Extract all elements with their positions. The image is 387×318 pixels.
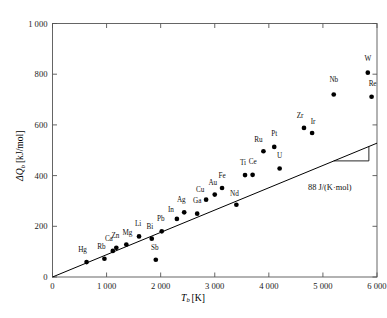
data-point	[365, 70, 370, 75]
data-point-label: Au	[208, 179, 217, 187]
data-point	[159, 229, 164, 234]
data-point-label: Ga	[193, 197, 201, 205]
data-point-label: Ag	[177, 196, 186, 204]
data-point	[331, 92, 336, 97]
data-point	[250, 172, 255, 177]
data-point	[124, 242, 129, 247]
data-point	[137, 234, 142, 239]
data-point	[310, 131, 315, 136]
data-point	[261, 149, 266, 154]
plot-frame	[53, 24, 378, 278]
x-tick-label: 4 000	[259, 281, 278, 291]
chart-figure: ΔQb [kJ/mol] Tb [K] 88 J/(K·mol) 01 0002…	[0, 0, 387, 318]
data-point-label: Re	[369, 80, 377, 88]
x-tick-label: 6 000	[367, 281, 386, 291]
data-point-label: Hg	[78, 246, 87, 254]
y-tick-label: 600	[0, 120, 48, 130]
data-point-label: Ce	[249, 158, 257, 166]
data-point-label: Ru	[254, 136, 262, 144]
data-point-label: Bi	[146, 223, 153, 231]
x-tick-label: 2 000	[151, 281, 170, 291]
x-tick-label: 1 000	[97, 281, 116, 291]
data-point	[243, 173, 248, 178]
data-point	[114, 245, 119, 250]
data-point-label: Ir	[311, 118, 316, 126]
x-tick-label: 0	[50, 281, 54, 291]
data-point-label: W	[364, 55, 371, 63]
scatter-plot-canvas	[0, 0, 387, 318]
data-point-label: Zn	[111, 232, 119, 240]
y-tick-label: 200	[0, 221, 48, 231]
data-point-label: Nd	[230, 190, 239, 198]
data-point	[369, 94, 374, 99]
data-point-label: Rb	[97, 243, 105, 251]
data-point	[234, 202, 239, 207]
fit-line	[53, 143, 378, 277]
data-point	[277, 166, 282, 171]
data-point	[220, 186, 225, 191]
y-tick-label: 1 000	[0, 19, 48, 29]
data-point-label: Sb	[151, 244, 158, 252]
data-point-label: Cu	[196, 186, 204, 194]
data-point	[182, 210, 187, 215]
data-point-label: Ti	[240, 159, 246, 167]
data-point	[272, 145, 277, 150]
data-point	[149, 236, 154, 241]
data-point	[204, 197, 209, 202]
y-tick-label: 800	[0, 69, 48, 79]
data-point-label: Zr	[297, 112, 304, 120]
x-axis-title: Tb [K]	[181, 292, 205, 303]
y-tick-label: 400	[0, 171, 48, 181]
slope-annotation-label: 88 J/(K·mol)	[308, 183, 352, 192]
data-point-label: Pb	[157, 215, 164, 223]
data-point	[175, 217, 180, 222]
data-point-label: Li	[135, 220, 141, 228]
data-point-label: In	[168, 206, 174, 214]
data-point-label: Mg	[122, 229, 132, 237]
data-point	[212, 192, 217, 197]
data-point-label: Nb	[329, 76, 338, 84]
data-point-label: U	[277, 152, 282, 160]
data-point	[302, 126, 307, 131]
data-point	[102, 256, 107, 261]
data-point-label: Pt	[271, 130, 277, 138]
y-axis-title: ΔQb [kJ/mol]	[14, 96, 25, 216]
data-point	[84, 260, 89, 265]
data-point	[153, 257, 158, 262]
y-tick-label: 0	[0, 272, 48, 282]
x-tick-label: 5 000	[313, 281, 332, 291]
x-tick-label: 3 000	[205, 281, 224, 291]
data-point	[195, 211, 200, 216]
data-point-label: Fe	[219, 172, 226, 180]
